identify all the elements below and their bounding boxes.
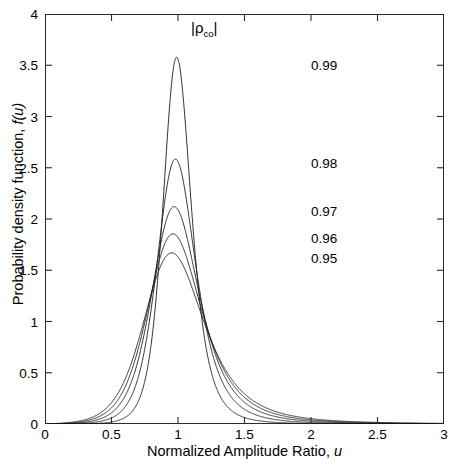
curve-label-0.96: 0.96 [311, 231, 337, 246]
x-tick-label: 1.5 [235, 427, 254, 442]
x-tick-label: 0 [41, 427, 49, 442]
y-tick-label: 4 [0, 7, 38, 22]
curve-label-0.99: 0.99 [311, 58, 337, 73]
legend-title: |ρco| [191, 19, 217, 39]
y-tick-label: 0 [0, 417, 38, 432]
x-tick-label: 1 [174, 427, 182, 442]
curve-label-0.95: 0.95 [311, 250, 337, 265]
curve-label-0.97: 0.97 [311, 203, 337, 218]
x-axis-title: Normalized Amplitude Ratio, u [45, 443, 444, 459]
x-tick-label: 2 [307, 427, 315, 442]
tick-marks [45, 14, 444, 424]
x-tick-label: 3 [440, 427, 448, 442]
x-tick-label: 2.5 [368, 427, 387, 442]
x-tick-label: 0.5 [102, 427, 121, 442]
curve-label-0.98: 0.98 [311, 155, 337, 170]
figure: 00.511.522.533.54 00.511.522.53 Normaliz… [0, 0, 461, 465]
y-axis-title: Probability density function, f(u) [10, 34, 26, 374]
